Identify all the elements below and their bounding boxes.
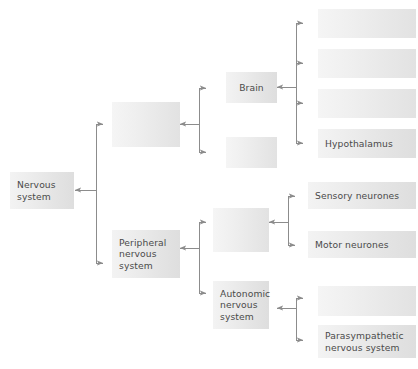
node-brain-part-2[interactable]	[318, 49, 416, 78]
node-nervous-system[interactable]: Nervous system	[10, 172, 74, 209]
node-brain-part-1[interactable]	[318, 9, 416, 38]
node-sympathetic-nervous-system[interactable]	[318, 286, 416, 316]
node-hypothalamus[interactable]: Hypothalamus	[318, 129, 416, 158]
node-motor-neurones[interactable]: Motor neurones	[308, 231, 416, 258]
node-somatic-nervous-system[interactable]	[213, 208, 269, 252]
node-sensory-neurones[interactable]: Sensory neurones	[308, 182, 416, 209]
nervous-system-flow-chart: Nervous system Peripheral nervous system…	[0, 0, 418, 369]
node-peripheral-nervous-system[interactable]: Peripheral nervous system	[112, 230, 180, 278]
node-brain-part-3[interactable]	[318, 89, 416, 118]
node-spinal-cord[interactable]	[226, 137, 277, 168]
node-central-nervous-system[interactable]	[112, 102, 180, 147]
node-brain[interactable]: Brain	[226, 72, 277, 103]
node-autonomic-nervous-system[interactable]: Autonomic nervous system	[213, 281, 269, 329]
node-parasympathetic-nervous-system[interactable]: Parasympathetic nervous system	[318, 325, 416, 358]
